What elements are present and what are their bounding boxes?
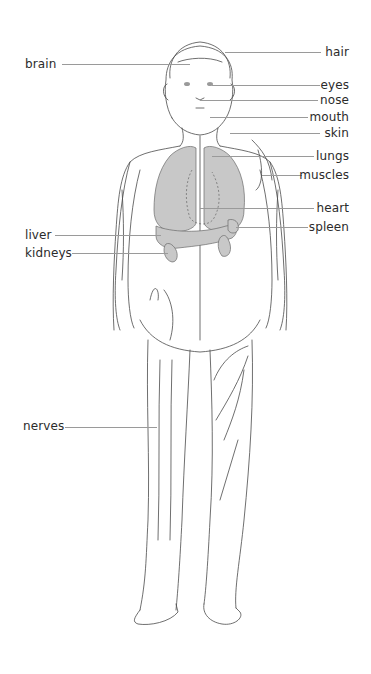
label-nose: nose xyxy=(320,93,349,107)
label-nerves: nerves xyxy=(23,419,64,433)
leader-line-hair xyxy=(225,52,321,53)
leader-line-eyes xyxy=(212,85,320,86)
leader-line-liver xyxy=(55,235,161,236)
human-body-diagram: brain liver kidneys nerves hair eyes nos… xyxy=(0,0,371,674)
leader-line-lungs xyxy=(212,156,314,157)
right-foot xyxy=(204,604,241,624)
leader-line-spleen xyxy=(236,227,308,228)
left-lung xyxy=(154,146,196,232)
hair-outline xyxy=(170,42,231,78)
label-mouth: mouth xyxy=(310,110,349,124)
right-lung xyxy=(204,146,244,232)
leader-line-mouth xyxy=(210,117,308,118)
label-hair: hair xyxy=(325,45,349,59)
head-outline xyxy=(165,46,233,135)
leader-line-muscles xyxy=(262,175,302,176)
label-spleen: spleen xyxy=(309,220,349,234)
label-liver: liver xyxy=(25,228,52,242)
body-illustration xyxy=(0,0,371,674)
label-kidneys: kidneys xyxy=(25,246,72,260)
leader-line-nose xyxy=(200,100,318,101)
label-eyes: eyes xyxy=(320,78,349,92)
label-skin: skin xyxy=(324,126,349,140)
leader-line-brain xyxy=(62,64,190,65)
leader-line-nerves xyxy=(65,427,157,428)
label-brain: brain xyxy=(25,57,56,71)
label-lungs: lungs xyxy=(316,149,349,163)
leader-line-kidneys xyxy=(72,253,168,254)
leader-line-skin xyxy=(230,133,320,134)
label-muscles: muscles xyxy=(299,168,349,182)
label-heart: heart xyxy=(317,201,349,215)
leader-line-heart xyxy=(200,208,314,209)
